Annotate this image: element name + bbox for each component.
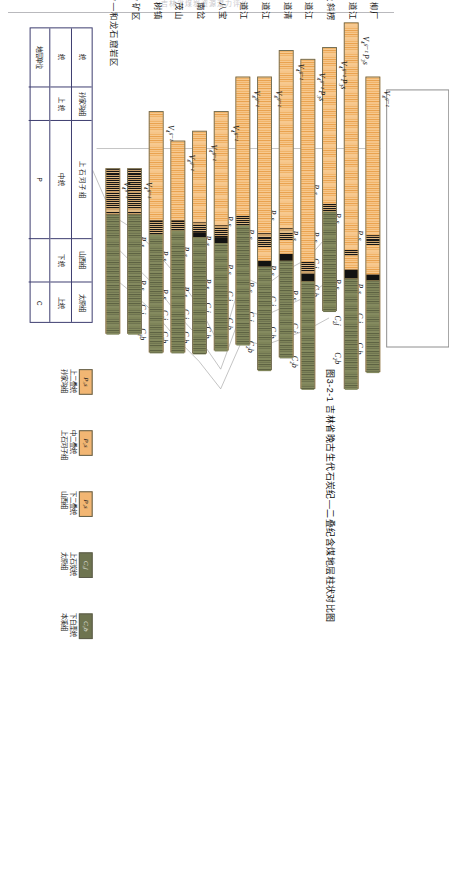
column-segment-coal <box>345 249 358 255</box>
key-table-cell: 上统 <box>51 282 71 323</box>
column-segment-orange <box>258 247 271 261</box>
key-table-row: 地层单位PC <box>29 28 50 322</box>
section-name: 八宝 <box>218 0 230 20</box>
stratigraphic-column-bar <box>105 168 120 333</box>
legend-swatch: C₂b <box>79 613 93 639</box>
volcanic-unit-label: V₄ᵍ⁻ᶻ <box>252 90 261 106</box>
section-name: 道清 <box>283 0 295 20</box>
column-segment-orange <box>215 112 228 225</box>
column-segment-coal <box>193 222 206 232</box>
key-table-cell: 太原组 <box>72 282 92 323</box>
section-column: 十八道岭—和龙石窟岩区V₄ᵍ⁻ᶻ <box>101 22 123 869</box>
column-segment-orange <box>236 77 249 215</box>
column-segment-green <box>236 225 249 345</box>
legend-formation-name: 太原组 <box>60 552 67 578</box>
column-segment-green <box>323 211 336 311</box>
column-segment-green <box>193 237 206 354</box>
section-name: 南茂山 <box>174 0 186 20</box>
volcanic-unit-label: V₄ᵍ⁻ᶻ <box>166 124 175 140</box>
section-column: 道清V₄ᵍ⁻ᶻP₃sP₂sC₂jC₂b <box>274 22 296 869</box>
volcanic-unit-label: V₄ᵍ⁻ᶻ <box>209 144 218 160</box>
column-segment-green <box>150 234 163 353</box>
column-segment-orange <box>280 240 293 254</box>
stratigraphic-column-bar <box>300 58 315 388</box>
section-name: 八道江 <box>239 0 251 20</box>
key-table-cell <box>29 87 50 120</box>
column-segment-black <box>301 273 314 281</box>
column-segment-green <box>171 230 184 353</box>
section-name: 十八道岭矿区 <box>131 0 143 20</box>
column-segment-orange <box>301 59 314 261</box>
volcanic-unit-label: V₄ᵍ⁻ᶻ <box>187 154 196 170</box>
column-segment-green <box>128 214 141 334</box>
section-column: 南岔V₄ᵍ⁻ᶻP₃sP₂sC₂jC₂b <box>187 22 209 869</box>
column-segment-coal <box>301 261 314 273</box>
volcanic-unit-label: V₄ᵍ⁻ᶻ <box>231 124 240 140</box>
column-segment-coal <box>323 203 336 211</box>
key-table-row: 统孙家沟组上 石 河 子 组山西组太原组 <box>71 28 92 322</box>
key-table-cell: 统 <box>72 28 92 87</box>
stratigraphic-column-bar <box>235 76 250 344</box>
legend-series-name: 上石炭统 <box>70 552 77 578</box>
highlight-frame <box>386 89 449 347</box>
column-segment-black <box>366 274 379 280</box>
stratigraphic-correlation-figure: 柳厂V₄ᵍ⁻ᶻP₃sP₂sC₂jC₂b四道江V₄ᵍ⁻ᶻ P₃sP₃sP₂sC₂j… <box>14 22 388 869</box>
legend-item: P₂s中二叠统上石河子组 <box>60 430 92 460</box>
volcanic-unit-label: V₄ᵍ⁻ᶻ <box>274 90 283 106</box>
volcanic-unit-label: V₄ᵍ⁻ᶻ <box>382 90 391 106</box>
legend-series-name: 下白垩统 <box>70 613 77 639</box>
column-segment-orange <box>150 112 163 220</box>
legend-item: P₃s上二叠统孙家沟组 <box>60 369 92 395</box>
column-segment-orange <box>366 77 379 235</box>
key-table-cell: 下 统 <box>51 239 71 282</box>
section-name: 五道江 <box>304 0 316 20</box>
key-table-cell: C <box>29 282 50 323</box>
section-name: 柳厂 <box>369 0 381 20</box>
column-segment-coal <box>106 169 119 214</box>
column-segment-black <box>345 269 358 278</box>
legend-series-name: 下二叠统 <box>70 491 77 517</box>
legend-series-name: 中二叠统 <box>70 430 77 460</box>
legend-item: C₂j上石炭统太原组 <box>60 552 92 578</box>
volcanic-unit-label: V₄ᵍ⁻ᶻ <box>296 63 305 79</box>
section-name: 南岔 <box>196 0 208 20</box>
stratigraphic-column-bar <box>170 140 185 352</box>
key-table-cell: 上 统 <box>51 87 71 120</box>
key-table-cell: 统 <box>51 28 71 87</box>
column-segment-coal <box>171 220 184 230</box>
key-table-cell <box>29 239 50 282</box>
section-column: 五道江V₄ᵍ⁻ᶻ P₃sP₃sP₂sC₂jC₂b <box>296 22 318 869</box>
legend-swatch: P₁s <box>79 491 93 517</box>
legend-formation-name: 孙家沟组 <box>60 369 67 395</box>
section-column: 四道江V₄ᵍ⁻ᶻ P₃sP₃sP₂sC₂jC₂b <box>339 22 361 869</box>
key-table-cell: 中 统 <box>51 120 71 238</box>
section-columns: 柳厂V₄ᵍ⁻ᶻP₃sP₂sC₂jC₂b四道江V₄ᵍ⁻ᶻ P₃sP₃sP₂sC₂j… <box>93 22 389 869</box>
key-table-cell: 孙家沟组 <box>72 87 92 120</box>
section-name: 十八道岭—和龙石窟岩区 <box>109 0 121 20</box>
column-segment-coal <box>258 233 271 247</box>
column-segment-green <box>345 278 358 389</box>
key-table-row: 统上 统中 统下 统上统 <box>50 28 71 322</box>
column-segment-black <box>215 237 228 243</box>
legend-item: P₁s下二叠统山西组 <box>60 491 92 517</box>
legend-series-name: 上二叠统 <box>70 369 77 395</box>
column-segment-green <box>215 243 228 351</box>
column-segment-orange <box>366 245 379 275</box>
column-segment-green <box>366 280 379 373</box>
volcanic-unit-label: V₄ᵍ⁻ᶻ P₃s <box>317 72 326 100</box>
stratigraphic-column-bar <box>365 76 380 372</box>
key-table-cell: 地层单位 <box>29 28 50 87</box>
legend-swatch: C₂j <box>79 552 93 578</box>
column-segment-black <box>280 253 293 260</box>
volcanic-unit-label: V₄ᵍ⁻ᶻ P₃s <box>361 36 370 64</box>
key-table-cell: 上 石 河 子 组 <box>72 120 92 238</box>
column-segment-black <box>193 232 206 237</box>
section-column: 八道江V₄ᵍ⁻ᶻP₃sP₂sC₂jC₂b <box>231 22 253 869</box>
figure-caption: 图3-2-1 吉林省晚古生代石炭纪—二叠纪含煤地层柱状对比图 <box>324 369 337 724</box>
column-segment-coal <box>280 228 293 240</box>
column-segment-coal <box>366 235 379 245</box>
column-segment-green <box>106 214 119 334</box>
legend: P₃s上二叠统孙家沟组P₂s中二叠统上石河子组P₁s下二叠统山西组C₂j上石炭统… <box>28 369 93 861</box>
column-segment-green <box>301 281 314 389</box>
